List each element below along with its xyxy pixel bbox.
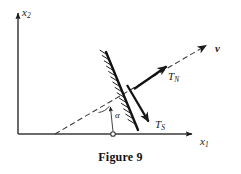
vector-label-TN: TN bbox=[168, 71, 179, 84]
vector-label-TS: TS bbox=[155, 119, 165, 132]
figure-caption: Figure 9 bbox=[0, 150, 241, 165]
angle-alpha-group bbox=[99, 106, 116, 136]
vector-TN-line bbox=[134, 67, 167, 90]
axis-label-x2: x2 bbox=[22, 7, 31, 20]
vector-TS-line bbox=[127, 85, 149, 122]
angle-leader-line bbox=[110, 107, 113, 132]
axis-group bbox=[18, 13, 192, 134]
angle-label-alpha: α bbox=[115, 111, 120, 120]
traction-vector-group bbox=[127, 67, 167, 122]
vector-label-v: v bbox=[215, 43, 220, 54]
axis-label-x1: x1 bbox=[200, 136, 209, 149]
angle-vertex-dot bbox=[111, 132, 116, 137]
barrier-line bbox=[106, 52, 138, 130]
figure-9-diagram: x2 x1 TN TS v α Figure 9 bbox=[0, 0, 241, 174]
